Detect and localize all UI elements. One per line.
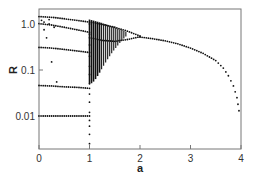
data-point [84, 51, 86, 53]
data-point [236, 97, 238, 99]
data-point [89, 52, 91, 54]
data-point [95, 38, 97, 40]
data-point [80, 20, 82, 22]
data-point [103, 40, 105, 42]
data-point [164, 40, 166, 42]
data-point [53, 17, 55, 19]
data-point [89, 133, 91, 135]
data-point [129, 31, 131, 33]
data-point [196, 50, 198, 52]
data-point [225, 71, 227, 73]
data-point [148, 37, 150, 39]
data-point [53, 85, 55, 87]
data-point [47, 16, 49, 18]
data-point [89, 120, 91, 122]
data-point [89, 55, 91, 57]
data-point [72, 115, 74, 117]
data-point [95, 22, 97, 24]
data-point [63, 18, 65, 20]
data-point [44, 85, 46, 87]
data-point [82, 51, 84, 53]
data-point [99, 23, 101, 25]
data-point [86, 115, 88, 117]
data-point [47, 115, 49, 117]
data-point [129, 38, 131, 40]
data-point [65, 86, 67, 88]
data-point [137, 34, 139, 36]
data-point [137, 36, 139, 38]
data-point [89, 111, 91, 113]
data-point [192, 48, 194, 50]
data-point [74, 115, 76, 117]
data-point [80, 30, 82, 32]
x-tick-label: 4 [238, 153, 244, 164]
data-point [89, 87, 91, 89]
y-tick-label: 1.0 [21, 19, 35, 30]
data-point [158, 39, 160, 41]
data-point [118, 40, 120, 42]
data-point [59, 17, 61, 19]
data-point [57, 115, 59, 117]
data-point [89, 143, 91, 145]
data-point [126, 30, 128, 32]
data-point [70, 86, 72, 88]
data-point [53, 26, 55, 28]
data-point [82, 87, 84, 89]
bifurcation-chart: 01234 1.00.10.01 a R [0, 0, 255, 181]
data-point [51, 16, 53, 18]
data-point [43, 21, 45, 23]
data-point [76, 19, 78, 21]
data-point [213, 59, 215, 61]
data-point [89, 33, 91, 35]
data-point [108, 40, 110, 42]
data-point [86, 87, 88, 89]
data-point [63, 49, 65, 51]
data-point [101, 40, 103, 42]
data-point [206, 55, 208, 57]
data-point [42, 47, 44, 49]
data-point [190, 47, 192, 49]
data-point [43, 29, 45, 31]
data-point [55, 17, 57, 19]
data-point [103, 24, 105, 26]
data-point [68, 27, 70, 29]
data-point [215, 60, 217, 62]
data-point [211, 57, 213, 59]
data-point [116, 27, 118, 29]
data-point [141, 36, 143, 38]
data-point [84, 21, 86, 23]
data-point [97, 23, 99, 25]
data-point [97, 39, 99, 41]
data-point [162, 40, 164, 42]
data-point [59, 48, 61, 50]
data-point [89, 93, 91, 95]
data-point [61, 115, 63, 117]
data-point [139, 36, 141, 38]
data-point [114, 26, 116, 28]
data-point [171, 41, 173, 43]
data-point [51, 47, 53, 49]
data-point [150, 37, 152, 39]
data-point [89, 83, 91, 85]
data-point [44, 47, 46, 49]
data-point [133, 33, 135, 35]
data-point [65, 18, 67, 20]
data-point [91, 22, 93, 24]
data-point [61, 26, 63, 28]
data-point [44, 16, 46, 18]
data-point [59, 26, 61, 28]
data-point [65, 115, 67, 117]
data-point [56, 81, 58, 83]
data-point [154, 38, 156, 40]
data-point [72, 50, 74, 52]
data-point [68, 18, 70, 20]
data-point [135, 37, 137, 39]
data-point [237, 103, 239, 105]
data-point [156, 38, 158, 40]
data-point [227, 75, 229, 77]
data-point [89, 44, 91, 46]
data-point [72, 19, 74, 21]
data-point [181, 44, 183, 46]
data-point [166, 40, 168, 42]
data-point [187, 46, 189, 48]
